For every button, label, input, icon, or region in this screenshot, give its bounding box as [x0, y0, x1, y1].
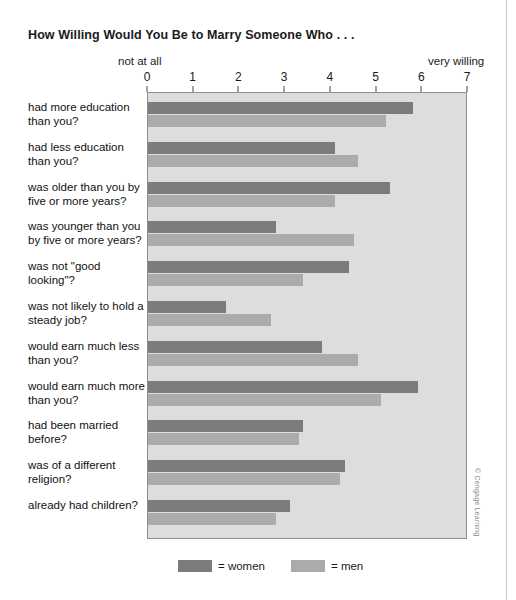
bar-group: [148, 182, 466, 208]
x-tick-label: 1: [189, 70, 196, 84]
legend-item-women: = women: [178, 560, 265, 572]
x-tick-label: 0: [144, 70, 151, 84]
bar-group: [148, 341, 466, 367]
bar-group: [148, 301, 466, 327]
axis-anchor-low: not at all: [118, 55, 161, 67]
bar-group: [148, 460, 466, 486]
bar-group: [148, 142, 466, 168]
bar-men: [148, 354, 358, 366]
legend-swatch-women: [178, 560, 212, 572]
category-label: was of a different religion?: [28, 458, 146, 486]
bar-men: [148, 314, 271, 326]
category-label: had less education than you?: [28, 140, 146, 168]
bar-group: [148, 500, 466, 526]
bar-group: [148, 102, 466, 128]
category-label: was not "good looking"?: [28, 259, 146, 287]
category-label: would earn much less than you?: [28, 339, 146, 367]
bar-men: [148, 274, 303, 286]
bar-group: [148, 420, 466, 446]
category-label: would earn much more than you?: [28, 379, 146, 407]
category-label: was older than you by five or more years…: [28, 180, 146, 208]
x-tick-label: 7: [464, 70, 471, 84]
bar-women: [148, 460, 345, 472]
bar-men: [148, 195, 335, 207]
bar-men: [148, 473, 340, 485]
bar-men: [148, 234, 354, 246]
category-label: was not likely to hold a steady job?: [28, 299, 146, 327]
bar-men: [148, 155, 358, 167]
copyright-credit: © Cengage Learning: [474, 468, 481, 536]
plot-area: [147, 92, 467, 539]
x-tick-label: 3: [281, 70, 288, 84]
category-label: had more education than you?: [28, 100, 146, 128]
legend-item-men: = men: [291, 560, 363, 572]
page-right-rule: [506, 0, 507, 600]
legend-label-men: = men: [331, 560, 363, 572]
x-tick-label: 6: [418, 70, 425, 84]
x-tick-label: 2: [235, 70, 242, 84]
category-label: had been married before?: [28, 418, 146, 446]
bar-women: [148, 102, 413, 114]
page-title: How Willing Would You Be to Marry Someon…: [28, 28, 355, 42]
bar-women: [148, 301, 226, 313]
bar-men: [148, 394, 381, 406]
bar-men: [148, 513, 276, 525]
bar-men: [148, 115, 386, 127]
bar-group: [148, 261, 466, 287]
bar-women: [148, 381, 418, 393]
bar-women: [148, 182, 390, 194]
category-label: already had children?: [28, 498, 146, 512]
chart-legend: = women = men: [147, 556, 467, 576]
bar-group: [148, 381, 466, 407]
axis-anchor-high: very willing: [428, 55, 484, 67]
legend-label-women: = women: [218, 560, 265, 572]
x-axis-tick-labels: 01234567: [147, 70, 467, 86]
bar-women: [148, 142, 335, 154]
bar-women: [148, 500, 290, 512]
x-tick-label: 4: [327, 70, 334, 84]
bar-group: [148, 221, 466, 247]
bar-women: [148, 261, 349, 273]
bar-men: [148, 433, 299, 445]
category-label: was younger than you by five or more yea…: [28, 219, 146, 247]
category-label-column: had more education than you?had less edu…: [28, 92, 143, 539]
bar-women: [148, 420, 303, 432]
bar-women: [148, 221, 276, 233]
x-tick-label: 5: [372, 70, 379, 84]
chart-page: How Willing Would You Be to Marry Someon…: [0, 0, 516, 600]
bar-women: [148, 341, 322, 353]
legend-swatch-men: [291, 560, 325, 572]
